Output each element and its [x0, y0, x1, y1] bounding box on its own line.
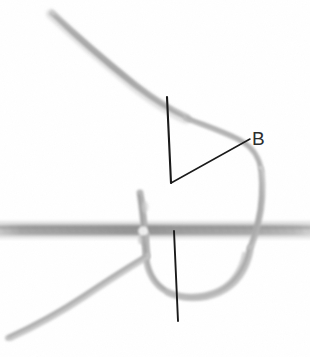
- suture-figure: B: [0, 0, 310, 357]
- suture-photograph: [0, 0, 310, 357]
- photo-grain: [0, 0, 310, 357]
- annotation-label-b: B: [252, 129, 265, 148]
